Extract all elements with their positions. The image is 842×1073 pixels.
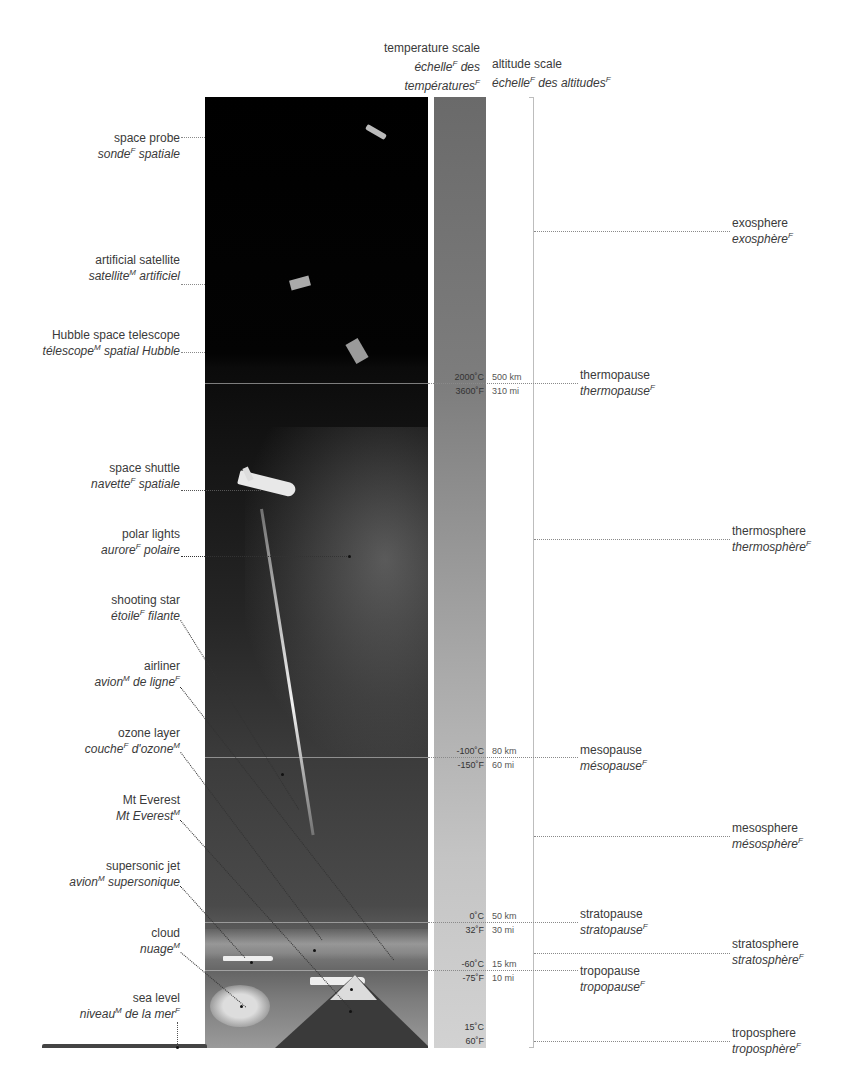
altitude-scale-en: altitude scale <box>492 56 611 72</box>
label-space-shuttle: space shuttle navetteF spatiale <box>91 460 180 492</box>
label-mt-everest: Mt Everest Mt EverestM <box>116 792 180 824</box>
temp-c-surface: 15˚C <box>434 1022 484 1033</box>
label-supersonic-jet: supersonic jet avionM supersonique <box>69 858 180 890</box>
alt-km-stratopause: 50 km <box>492 911 517 922</box>
temperature-scale-bar <box>434 97 486 1048</box>
alt-mi-stratopause: 30 mi <box>492 925 514 936</box>
label-stratopause: stratopause stratopauseF <box>580 906 648 938</box>
troposphere-leader <box>534 1041 730 1042</box>
polar-lights-leader <box>181 556 349 557</box>
label-stratosphere: stratosphere stratosphèreF <box>732 936 804 968</box>
thermopause-line <box>205 383 428 384</box>
alt-mi-tropopause: 10 mi <box>492 973 514 984</box>
atmosphere-illustration <box>205 97 428 1048</box>
stratosphere-leader <box>534 953 730 954</box>
space-probe-leader <box>181 137 205 138</box>
temp-f-surface: 60˚F <box>434 1036 484 1047</box>
satellite-leader <box>181 284 205 285</box>
label-space-probe: space probe sondeF spatiale <box>98 130 180 162</box>
hubble-leader <box>181 352 205 353</box>
sea-level-leader <box>177 1022 178 1046</box>
label-ozone-layer: ozone layer coucheF d'ozoneM <box>85 725 180 757</box>
label-sea-level: sea level niveauM de la merF <box>80 990 180 1022</box>
temp-c-tropopause: -60˚C <box>434 959 484 970</box>
temperature-scale-header: temperature scale échelleF des températu… <box>368 40 480 94</box>
bracket-top-tick <box>529 97 534 98</box>
tropopause-leader <box>428 970 578 971</box>
supersonic-jet-point <box>250 961 253 964</box>
label-thermosphere: thermosphere thermosphèreF <box>732 523 811 555</box>
label-tropopause: tropopause tropopauseF <box>580 963 645 995</box>
thermopause-leader <box>428 383 578 384</box>
alt-mi-thermopause: 310 mi <box>492 386 519 397</box>
temp-f-tropopause: -75˚F <box>434 973 484 984</box>
satellite-icon <box>289 276 311 291</box>
label-airliner: airliner avionM de ligneF <box>94 658 180 690</box>
label-shooting-star: shooting star étoileF filante <box>111 592 180 624</box>
mesopause-leader <box>428 757 578 758</box>
hubble-telescope-icon <box>345 338 368 364</box>
temp-f-thermopause: 3600˚F <box>434 386 484 397</box>
supersonic-jet-icon <box>223 956 273 961</box>
stratopause-leader <box>428 922 578 923</box>
mesopause-line <box>205 757 428 758</box>
alt-mi-mesopause: 60 mi <box>492 760 514 771</box>
exosphere-leader <box>534 231 730 232</box>
label-cloud: cloud nuageM <box>140 925 180 957</box>
space-shuttle-leader <box>181 490 261 491</box>
temp-f-mesopause: -150˚F <box>434 760 484 771</box>
mt-everest-snow-icon <box>330 975 377 1000</box>
temp-c-stratopause: 0˚C <box>434 911 484 922</box>
mt-everest-point <box>349 1010 352 1013</box>
ozone-layer-point <box>313 949 316 952</box>
temperature-scale-en: temperature scale <box>368 40 480 56</box>
mesosphere-leader <box>534 836 730 837</box>
label-mesosphere: mesosphere mésosphèreF <box>732 820 803 852</box>
label-mesopause: mesopause mésopauseF <box>580 742 647 774</box>
alt-km-mesopause: 80 km <box>492 746 517 757</box>
label-thermopause: thermopause thermopauseF <box>580 367 655 399</box>
cloud-point <box>240 1005 243 1008</box>
ground-silhouette <box>42 1044 207 1048</box>
alt-km-tropopause: 15 km <box>492 959 517 970</box>
airliner-point <box>350 988 353 991</box>
label-exosphere: exosphere exosphèreF <box>732 215 793 247</box>
alt-km-thermopause: 500 km <box>492 372 522 383</box>
label-artificial-satellite: artificial satellite satelliteM artifici… <box>89 252 180 284</box>
sea-level-point <box>176 1046 179 1049</box>
shooting-star-point <box>281 773 284 776</box>
label-troposphere: troposphere troposphèreF <box>732 1025 801 1057</box>
altitude-scale-bracket <box>533 97 534 1048</box>
label-polar-lights: polar lights auroreF polaire <box>101 526 180 558</box>
temp-c-mesopause: -100˚C <box>434 746 484 757</box>
space-probe-icon <box>365 124 387 140</box>
altitude-scale-header: altitude scale échelleF des altitudesF <box>492 56 611 91</box>
bracket-bottom-tick <box>529 1047 534 1048</box>
label-hubble-telescope: Hubble space telescope télescopeM spatia… <box>43 327 180 359</box>
stratopause-line <box>205 922 428 923</box>
thermosphere-leader <box>534 539 730 540</box>
polar-lights-point <box>348 555 351 558</box>
temp-f-stratopause: 32˚F <box>434 925 484 936</box>
temp-c-thermopause: 2000˚C <box>434 372 484 383</box>
